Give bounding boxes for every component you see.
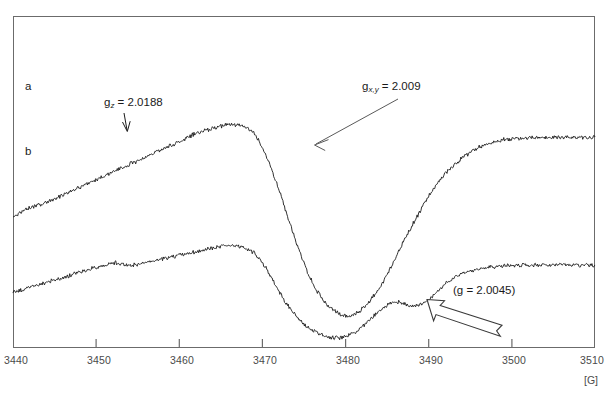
gxy-pointer-arrow bbox=[315, 99, 399, 151]
annotation-gz: gz = 2.0188 bbox=[104, 96, 163, 108]
spectrum-plot bbox=[0, 0, 611, 396]
x-axis-ticks bbox=[96, 339, 512, 348]
trace-label-a: a bbox=[25, 80, 31, 92]
xtick-label-3470: 3470 bbox=[253, 354, 277, 366]
annotation-gxy: gx,y = 2.009 bbox=[362, 80, 421, 92]
trace-group bbox=[13, 123, 595, 340]
xtick-label-3440: 3440 bbox=[4, 354, 28, 366]
annotation-g-free: (g = 2.0045) bbox=[453, 284, 515, 296]
xtick-label-3510: 3510 bbox=[580, 354, 604, 366]
xtick-label-3480: 3480 bbox=[336, 354, 360, 366]
trace-label-b: b bbox=[25, 145, 31, 157]
xtick-label-3490: 3490 bbox=[419, 354, 443, 366]
gz-pointer-arrow bbox=[123, 113, 131, 132]
gxy-subscript: x,y bbox=[368, 85, 378, 94]
xtick-label-3500: 3500 bbox=[502, 354, 526, 366]
xtick-label-3460: 3460 bbox=[170, 354, 194, 366]
figure-canvas: a b gz = 2.0188 gx,y = 2.009 (g = 2.0045… bbox=[0, 0, 611, 396]
gxy-value: = 2.009 bbox=[379, 80, 421, 92]
xtick-label-3450: 3450 bbox=[87, 354, 111, 366]
axis-unit-label: [G] bbox=[584, 374, 598, 386]
gz-subscript: z bbox=[110, 101, 114, 110]
gz-value: = 2.0188 bbox=[114, 96, 162, 108]
g-free-block-arrow bbox=[427, 300, 502, 337]
